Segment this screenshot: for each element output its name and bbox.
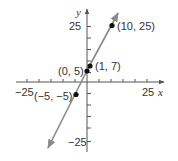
x-min-label: −25 (15, 86, 34, 98)
point-10-25 (109, 23, 114, 28)
y-axis-label: y (75, 6, 81, 18)
x-max-label: 25 (142, 86, 154, 98)
point-neg5-neg5 (73, 92, 78, 97)
point-0-5 (84, 68, 89, 73)
y-min-label: −25 (68, 136, 87, 148)
point-label-neg5-neg5: (−5, −5) (34, 90, 73, 102)
y-ticks (87, 27, 91, 142)
x-axis-label: x (157, 86, 163, 98)
point-label-1-7: (1, 7) (95, 60, 121, 72)
point-label-0-5: (0, 5) (58, 65, 84, 77)
point-label-10-25: (10, 25) (117, 20, 155, 32)
y-max-label: 25 (69, 20, 81, 32)
point-1-7 (87, 63, 92, 68)
coordinate-plane: y x 25 −25 −25 25 (10, 25) (1, 7) (0, 5)… (0, 0, 178, 161)
